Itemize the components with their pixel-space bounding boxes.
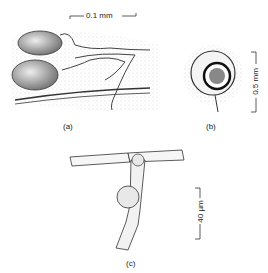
panel-label-a: (a) [63, 122, 73, 131]
figure-illustration [0, 0, 268, 273]
panel-b-drawing [183, 45, 256, 112]
panel-label-c: (c) [126, 259, 135, 268]
scale-bar-b: 0.5 mm [251, 67, 260, 97]
panel-a-drawing [10, 13, 160, 111]
panel-c-drawing [70, 150, 200, 250]
panel-label-b: (b) [206, 122, 216, 131]
scale-bar-c: 40 µm [196, 197, 205, 227]
scale-bar-a: 0.1 mm [86, 11, 113, 20]
